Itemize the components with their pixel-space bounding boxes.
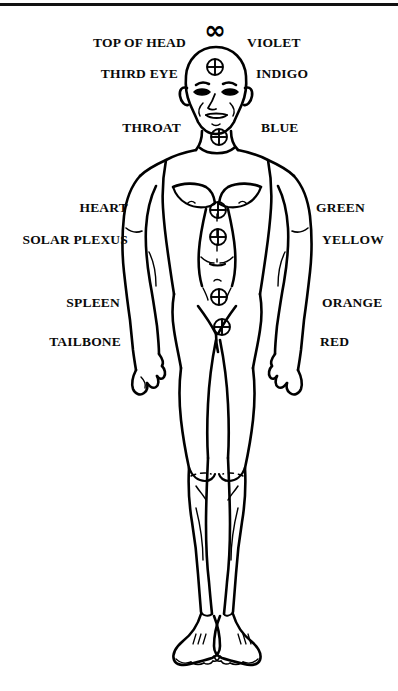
chakra-marker-third-eye [207,59,223,75]
label-third-eye: THIRD EYE [101,67,178,81]
chakra-marker-tailbone [214,319,230,335]
label-tailbone: TAILBONE [49,335,121,349]
label-indigo: INDIGO [256,67,308,81]
label-blue: BLUE [261,121,299,135]
chakra-marker-solar-plexus [210,229,226,245]
label-throat: THROAT [122,121,181,135]
label-violet: VIOLET [247,36,301,50]
chakra-diagram-page: ∞ TOP OF HEAD THIRD EYE THROAT HEART SOL… [0,0,398,691]
label-orange: ORANGE [322,296,382,310]
label-heart: HEART [79,201,128,215]
label-solar-plexus: SOLAR PLEXUS [22,233,128,247]
label-red: RED [320,335,349,349]
label-spleen: SPLEEN [66,296,120,310]
chakra-marker-spleen [211,289,227,305]
label-top-of-head: TOP OF HEAD [93,36,186,50]
label-green: GREEN [316,201,365,215]
infinity-symbol: ∞ [204,17,226,43]
chakra-marker-throat [211,129,227,145]
label-yellow: YELLOW [322,233,384,247]
chakra-marker-heart [210,202,226,218]
